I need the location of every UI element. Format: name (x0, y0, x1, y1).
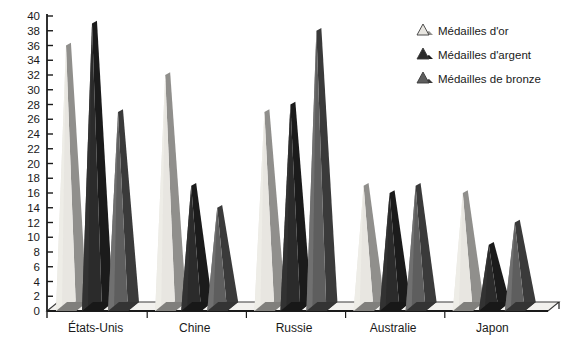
category-group-2 (155, 72, 238, 311)
legend-label: Médailles d'argent (438, 49, 532, 61)
cone-3-2 (280, 102, 311, 311)
y-tick-label: 18 (27, 172, 40, 184)
cone-1-1 (56, 43, 87, 311)
x-tick-label: Russie (276, 321, 313, 335)
cone-2-1 (155, 72, 186, 311)
y-tick-label: 32 (27, 69, 40, 81)
cone-4-1 (354, 183, 385, 311)
triangle-icon (417, 48, 433, 59)
y-tick-label: 38 (27, 25, 40, 37)
x-tick-label: Japon (476, 321, 509, 335)
triangle-icon (417, 24, 433, 35)
legend-item-1[interactable]: Médailles d'or (417, 24, 509, 37)
cone-1-2 (82, 21, 113, 311)
y-tick-label: 12 (27, 217, 40, 229)
legend-item-3[interactable]: Médailles de bronze (417, 72, 541, 85)
y-tick-label: 2 (34, 290, 40, 302)
medal-cone-chart: 0246810121416182022242628303234363840Éta… (0, 0, 563, 346)
cone-5-2 (479, 242, 510, 311)
legend-item-2[interactable]: Médailles d'argent (417, 48, 532, 61)
x-tick-label: Chine (179, 321, 211, 335)
category-group-5 (453, 190, 536, 311)
cone-5-3 (505, 220, 536, 311)
cone-1-3 (108, 109, 139, 311)
y-tick-label: 4 (34, 276, 41, 288)
chart-canvas: 0246810121416182022242628303234363840Éta… (0, 0, 563, 346)
x-tick-label: Australie (370, 321, 417, 335)
cone-4-3 (406, 183, 437, 311)
y-tick-label: 40 (27, 10, 40, 22)
cone-series-group (56, 21, 536, 311)
y-tick-label: 28 (27, 99, 40, 111)
category-group-4 (354, 183, 437, 311)
y-tick-label: 24 (27, 128, 40, 140)
cone-3-1 (254, 109, 285, 311)
y-tick-label: 10 (27, 231, 40, 243)
y-tick-label: 16 (27, 187, 40, 199)
y-axis: 0246810121416182022242628303234363840 (27, 10, 53, 317)
cone-4-2 (380, 190, 411, 311)
y-tick-label: 34 (27, 54, 40, 66)
cone-2-2 (181, 183, 212, 311)
legend: Médailles d'orMédailles d'argentMédaille… (417, 24, 541, 85)
category-group-3 (254, 28, 337, 311)
cone-5-1 (453, 190, 484, 311)
y-tick-label: 8 (34, 246, 40, 258)
cone-2-3 (207, 205, 238, 311)
y-tick-label: 22 (27, 143, 40, 155)
y-tick-label: 6 (34, 261, 40, 273)
legend-label: Médailles de bronze (438, 73, 541, 85)
cone-3-3 (306, 28, 337, 311)
y-tick-label: 26 (27, 113, 40, 125)
x-tick-label: États-Unis (68, 320, 123, 335)
y-tick-label: 14 (27, 202, 40, 214)
y-tick-label: 36 (27, 40, 40, 52)
y-tick-label: 30 (27, 84, 40, 96)
y-tick-label: 0 (34, 305, 40, 317)
y-tick-label: 20 (27, 158, 40, 170)
triangle-icon (417, 72, 433, 83)
category-group-1 (56, 21, 139, 311)
legend-label: Médailles d'or (438, 25, 509, 37)
